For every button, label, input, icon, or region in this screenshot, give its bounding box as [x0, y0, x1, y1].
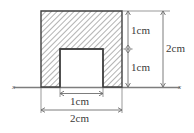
x-axis-label-right: x [178, 84, 181, 91]
dimension-label-right-lower: 1cm [131, 62, 150, 73]
dimension-label-bottom-inner: 1cm [70, 96, 89, 107]
x-axis-label-left: x [12, 84, 15, 91]
inner-notch-outline [60, 49, 103, 87]
figure-canvas [0, 0, 194, 133]
dimension-label-right-total: 2cm [166, 43, 185, 54]
dimension-label-bottom-outer: 2cm [70, 113, 89, 124]
geometry-figure: x x 1cm 1cm 2cm 1cm 2cm [0, 0, 194, 133]
right-outer-dimension [161, 11, 166, 87]
dimension-label-right-upper: 1cm [131, 25, 150, 36]
